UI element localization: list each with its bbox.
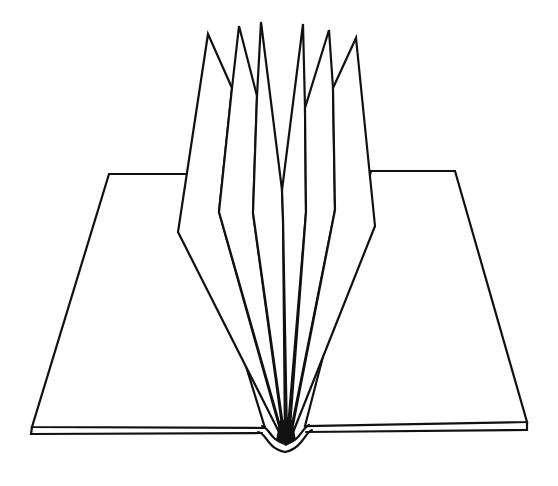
book-illustration: Open book with fanned pages bbox=[0, 0, 558, 486]
book-drawing bbox=[0, 0, 558, 486]
